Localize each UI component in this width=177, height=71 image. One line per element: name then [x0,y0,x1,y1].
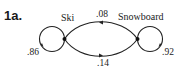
arrow-left-icon [99,21,103,25]
ski-self-loop [40,27,65,52]
prob-ski-to-ski: .86 [27,47,39,57]
snowboard-label: Snowboard [118,11,164,22]
ski-to-snowboard-arc [65,39,138,56]
snowboard-to-ski-arc [65,22,138,39]
ski-label: Ski [61,12,75,23]
prob-snowboard-to-snowboard: .92 [162,47,174,57]
prob-ski-to-snowboard: .14 [97,58,109,68]
snowboard-node [136,37,140,41]
snowboard-self-loop [138,27,163,52]
transition-diagram: Ski Snowboard .08 .14 .86 .92 [0,0,177,71]
ski-node [63,37,67,41]
arrow-right-icon [99,54,103,58]
prob-snowboard-to-ski: .08 [96,9,108,19]
